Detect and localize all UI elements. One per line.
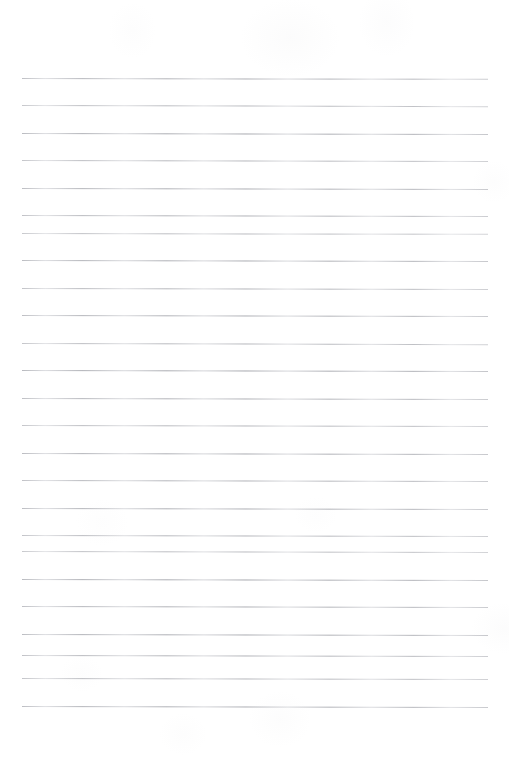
notebook-page <box>0 0 509 757</box>
ruled-line <box>22 706 488 708</box>
writing-area[interactable] <box>22 78 488 706</box>
